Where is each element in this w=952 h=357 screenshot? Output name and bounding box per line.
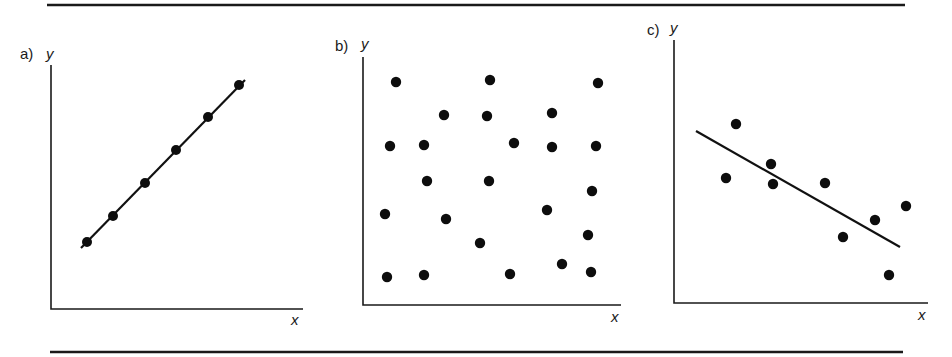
correlation-figure: a) y x b) y x c) y x xyxy=(0,0,952,357)
data-point xyxy=(482,111,492,121)
data-point xyxy=(870,215,880,225)
panel-c-negative-correlation: c) y x xyxy=(647,19,928,323)
data-point xyxy=(768,179,778,189)
panel-b-y-axis-label: y xyxy=(360,35,370,52)
data-point xyxy=(419,140,429,150)
data-point xyxy=(485,75,495,85)
data-point xyxy=(422,176,432,186)
data-point xyxy=(82,237,92,247)
data-point xyxy=(439,110,449,120)
data-point xyxy=(234,80,244,90)
data-point xyxy=(391,77,401,87)
data-point xyxy=(901,201,911,211)
data-point xyxy=(505,269,515,279)
panel-a-fit-line xyxy=(81,80,245,248)
data-point xyxy=(171,145,181,155)
data-point xyxy=(587,186,597,196)
panel-b-x-axis-label: x xyxy=(610,308,619,325)
panel-c-fit-line xyxy=(696,131,900,247)
panel-c-axes xyxy=(674,40,928,303)
data-point xyxy=(557,259,567,269)
panel-b-label: b) xyxy=(335,37,348,54)
panel-b-data-points xyxy=(380,75,603,282)
panel-a-positive-correlation: a) y x xyxy=(20,45,303,328)
data-point xyxy=(583,230,593,240)
data-point xyxy=(766,159,776,169)
panel-c-y-axis-label: y xyxy=(669,19,679,36)
panel-a-label: a) xyxy=(20,45,33,62)
data-point xyxy=(484,176,494,186)
data-point xyxy=(542,205,552,215)
data-point xyxy=(547,108,557,118)
data-point xyxy=(721,173,731,183)
panel-a-y-axis-label: y xyxy=(45,45,55,62)
panel-c-x-axis-label: x xyxy=(917,306,926,323)
data-point xyxy=(203,112,213,122)
data-point xyxy=(380,209,390,219)
data-point xyxy=(108,211,118,221)
data-point xyxy=(731,119,741,129)
data-point xyxy=(591,141,601,151)
data-point xyxy=(593,78,603,88)
data-point xyxy=(441,214,451,224)
data-point xyxy=(820,178,830,188)
data-point xyxy=(382,272,392,282)
data-point xyxy=(586,267,596,277)
data-point xyxy=(884,270,894,280)
panel-c-label: c) xyxy=(647,21,660,38)
data-point xyxy=(385,141,395,151)
data-point xyxy=(838,232,848,242)
panel-a-x-axis-label: x xyxy=(290,311,299,328)
panel-b-no-correlation: b) y x xyxy=(335,35,621,325)
panel-a-axes xyxy=(51,65,303,309)
data-point xyxy=(475,238,485,248)
data-point xyxy=(140,178,150,188)
data-point xyxy=(547,142,557,152)
data-point xyxy=(509,138,519,148)
data-point xyxy=(419,270,429,280)
figure-rules xyxy=(47,5,905,352)
